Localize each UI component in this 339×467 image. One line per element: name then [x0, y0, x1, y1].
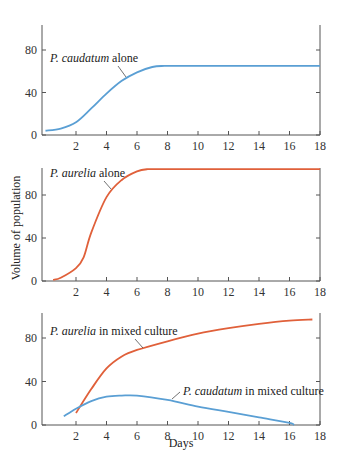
x-tick-label: 18 — [314, 139, 326, 153]
x-tick-label: 6 — [134, 139, 140, 153]
series-aurelia-alone — [53, 169, 320, 280]
y-tick-label: 0 — [31, 418, 37, 432]
y-tick-label: 40 — [25, 375, 37, 389]
x-tick-label: 16 — [284, 139, 296, 153]
x-tick-label: 2 — [73, 285, 79, 299]
y-tick-label: 80 — [25, 43, 37, 57]
x-tick-label: 14 — [253, 285, 265, 299]
x-tick-label: 4 — [104, 285, 110, 299]
x-tick-label: 18 — [314, 429, 326, 443]
x-tick-label: 8 — [165, 139, 171, 153]
figure: 04080 24681012141618 P. caudatum alone 0… — [0, 0, 339, 467]
x-tick-label: 6 — [134, 429, 140, 443]
panel-caudatum-alone: 04080 24681012141618 P. caudatum alone — [25, 25, 326, 153]
x-tick-label: 8 — [165, 285, 171, 299]
panel-aurelia-alone: 04080 24681012141618 P. aurelia alone — [25, 166, 326, 299]
annotation-leader — [135, 339, 143, 348]
y-tick-label: 40 — [25, 231, 37, 245]
annotation-caudatum-mixed: P. caudatum in mixed culture — [182, 384, 324, 398]
x-tick-label: 16 — [284, 429, 296, 443]
x-tick-label: 4 — [104, 429, 110, 443]
annotation-caudatum-alone: P. caudatum alone — [49, 51, 138, 65]
y-axis-label: Volume of population — [9, 176, 23, 280]
x-tick-label: 12 — [223, 285, 235, 299]
x-tick-label: 12 — [223, 139, 235, 153]
y-tick-label: 40 — [25, 86, 37, 100]
y-tick-label: 80 — [25, 188, 37, 202]
annotation-leader — [118, 66, 126, 77]
x-tick-label: 2 — [73, 139, 79, 153]
y-tick-label: 0 — [31, 128, 37, 142]
series-caudatum-mixed — [64, 395, 294, 425]
annotation-aurelia-mixed: P. aurelia in mixed culture — [49, 324, 178, 338]
x-tick-label: 2 — [73, 429, 79, 443]
y-tick-label: 0 — [31, 274, 37, 288]
x-tick-label: 16 — [284, 285, 296, 299]
x-axis-label: Days — [169, 436, 194, 450]
x-tick-label: 10 — [192, 139, 204, 153]
x-tick-label: 18 — [314, 285, 326, 299]
x-tick-label: 10 — [192, 285, 204, 299]
x-tick-label: 14 — [253, 429, 265, 443]
x-tick-label: 14 — [253, 139, 265, 153]
annotation-leader — [104, 181, 111, 189]
x-tick-label: 6 — [134, 285, 140, 299]
panel-mixed-culture: 04080 24681012141618 P. aurelia in mixed… — [25, 313, 326, 450]
annotation-leader — [172, 392, 180, 399]
x-tick-label: 10 — [192, 429, 204, 443]
x-tick-label: 4 — [104, 139, 110, 153]
x-tick-label: 12 — [223, 429, 235, 443]
series-caudatum-alone — [46, 66, 321, 131]
annotation-aurelia-alone: P. aurelia alone — [49, 166, 125, 180]
y-tick-label: 80 — [25, 331, 37, 345]
